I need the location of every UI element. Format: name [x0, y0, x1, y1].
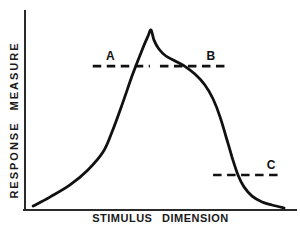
reference-lines-group [93, 66, 282, 175]
response-curve [33, 30, 284, 208]
chart-canvas [0, 0, 300, 233]
refline-a-label: A [106, 50, 115, 62]
y-axis-label: RESPONSE MEASURE [8, 41, 20, 198]
refline-b-label: B [207, 50, 216, 62]
stimulus-response-figure: RESPONSE MEASURE STIMULUS DIMENSION A B … [0, 0, 300, 233]
refline-c-label: C [267, 159, 276, 171]
x-axis-label: STIMULUS DIMENSION [25, 212, 296, 224]
